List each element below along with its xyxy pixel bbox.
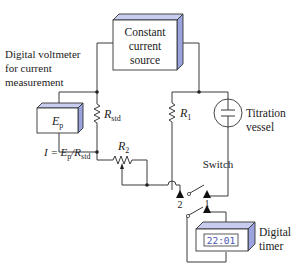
timer-top-face xyxy=(196,222,255,229)
switch-contact-2-icon xyxy=(176,190,184,198)
wire-to-r2 xyxy=(97,152,113,160)
timer-label-1: Digital xyxy=(259,226,291,239)
wire-source-left xyxy=(97,43,113,92)
timer-label-2: timer xyxy=(259,240,283,252)
r2-label: R2 xyxy=(117,139,129,155)
switch-contact-1-icon xyxy=(203,190,211,198)
wire-r2-right xyxy=(132,160,147,185)
rstd-label: Rstd xyxy=(103,107,121,123)
voltmeter-caption-3: measurement xyxy=(5,76,64,88)
current-source-label-3: source xyxy=(130,54,160,66)
junction-dot xyxy=(197,90,201,94)
wire-source-right xyxy=(183,43,199,92)
current-source-top-face xyxy=(113,14,183,20)
switch-blade-upper[interactable] xyxy=(190,185,204,193)
current-source-label-1: Constant xyxy=(125,26,167,38)
switch-contacts: 2 1 Switch xyxy=(176,158,234,213)
titration-vessel-label-2: vessel xyxy=(246,121,274,133)
wire-r2-wiper xyxy=(122,168,147,185)
resistor-rstd xyxy=(94,104,100,123)
voltmeter-caption-1: Digital voltmeter xyxy=(5,48,81,60)
r2-wiper-arrow-icon xyxy=(120,163,124,169)
junction-dot xyxy=(95,150,99,154)
switch-label: Switch xyxy=(203,158,234,170)
titration-vessel-label-1: Titration xyxy=(246,107,286,119)
voltmeter-caption-2: for current xyxy=(5,62,52,74)
titration-vessel: Titration vessel xyxy=(214,99,286,133)
resistor-r1 xyxy=(169,103,175,122)
voltmeter-top-face xyxy=(37,103,83,108)
current-source-label-2: current xyxy=(129,40,162,52)
junction-dots xyxy=(95,90,201,187)
switch-blade-lower[interactable] xyxy=(189,207,203,215)
digital-timer: 22:01 Digital timer xyxy=(196,222,291,252)
r1-label: R1 xyxy=(179,106,191,122)
timer-display-value: 22:01 xyxy=(207,235,236,246)
switch-contact-1-label: 1 xyxy=(205,198,210,209)
current-equation: I = Ep/Rstd xyxy=(43,146,90,161)
constant-current-source: Constant current source xyxy=(113,14,183,70)
current-source-side-face xyxy=(177,14,183,70)
resistor-r2 xyxy=(113,156,132,164)
junction-dot xyxy=(145,183,149,187)
voltmeter-side-face xyxy=(78,103,83,133)
switch-contact-2-label: 2 xyxy=(178,199,183,210)
digital-voltmeter: Ep Digital voltmeter for current measure… xyxy=(5,48,83,133)
junction-dot xyxy=(95,90,99,94)
coulometric-titration-circuit-diagram: Constant current source xyxy=(0,0,301,275)
